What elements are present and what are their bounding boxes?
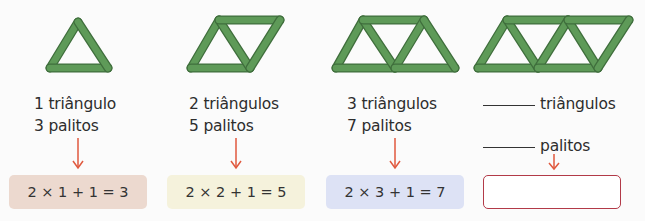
sticks-label-4: palitos <box>483 136 590 156</box>
triangles-label-2: 2 triângulos <box>189 94 279 114</box>
triangles-label-text: triângulos <box>540 95 616 113</box>
answer-expression-box[interactable] <box>483 175 621 209</box>
expression-box-3: 2 × 3 + 1 = 7 <box>326 175 464 209</box>
arrow-down-icon <box>72 138 84 170</box>
sticks-label-3: 7 palitos <box>347 116 412 136</box>
sticks-label-1: 3 palitos <box>34 116 99 136</box>
figure-3-triangles <box>336 20 455 68</box>
triangles-label-1: 1 triângulo <box>34 94 116 114</box>
expression-3: 2 × 3 + 1 = 7 <box>344 184 445 200</box>
sticks-label-text: palitos <box>540 137 590 155</box>
triangles-label-4: triângulos <box>483 94 616 114</box>
matchstick-figures: .stick { stroke: #3f6e3c; stroke-width: … <box>0 0 645 90</box>
figure-2-triangles <box>191 20 280 68</box>
arrow-down-icon <box>548 154 560 171</box>
expression-2: 2 × 2 + 1 = 5 <box>185 184 286 200</box>
expression-box-1: 2 × 1 + 1 = 3 <box>9 175 147 209</box>
sticks-label-2: 5 palitos <box>189 116 254 136</box>
arrow-down-icon <box>230 138 242 170</box>
triangles-label-3: 3 triângulos <box>347 94 437 114</box>
sticks-blank-input[interactable] <box>483 147 535 148</box>
expression-1: 2 × 1 + 1 = 3 <box>27 184 128 200</box>
figure-1-triangle <box>50 22 108 68</box>
arrow-down-icon <box>389 138 401 170</box>
figure-4-triangles <box>478 20 629 68</box>
expression-box-2: 2 × 2 + 1 = 5 <box>167 175 305 209</box>
triangles-blank-input[interactable] <box>483 105 535 106</box>
